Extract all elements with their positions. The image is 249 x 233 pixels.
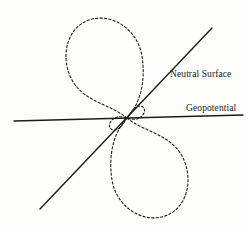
lower-right-major-lobe-curve [111,118,188,218]
upper-left-major-lobe-curve [66,18,143,118]
geopotential-label: Geopotential [186,103,236,114]
neutral-surface-label: Neutral Surface [170,69,231,80]
dipole-lobe-diagram: Neutral Surface Geopotential [0,0,249,233]
diagram-canvas [0,0,249,233]
